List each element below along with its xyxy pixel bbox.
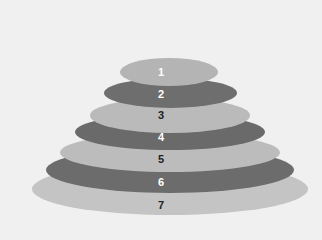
layer-1-label: 1 — [0, 66, 322, 78]
layer-7-label: 7 — [0, 199, 322, 211]
layer-2-label: 2 — [0, 88, 322, 100]
layer-3-label: 3 — [0, 109, 322, 121]
layer-4-label: 4 — [0, 131, 322, 143]
layer-5-label: 5 — [0, 153, 322, 165]
layer-6-label: 6 — [0, 176, 322, 188]
